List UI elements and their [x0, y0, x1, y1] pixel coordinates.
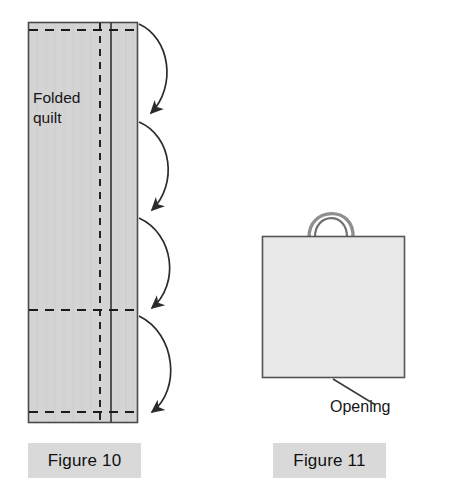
bag-body-rect — [263, 237, 405, 378]
figure-10-caption-text: Figure 10 — [48, 451, 122, 471]
opening-label: Opening — [330, 398, 391, 416]
fold-arrow-2 — [139, 122, 168, 210]
folded-quilt-label: Folded quilt — [33, 88, 97, 128]
diagram-canvas — [0, 0, 456, 503]
figure-page: Folded quilt Opening Figure 10 Figure 11 — [0, 0, 456, 503]
folded-quilt-rect — [29, 23, 138, 423]
fold-arrow-3 — [139, 218, 170, 308]
figure-10-caption-box: Figure 10 — [28, 443, 141, 478]
figure-10-group — [29, 23, 171, 423]
fold-arrow-1 — [139, 24, 167, 113]
folded-quilt-label-line-1: Folded — [33, 88, 97, 108]
bag-handle-inner — [315, 218, 347, 238]
figure-11-caption-text: Figure 11 — [293, 451, 365, 471]
figure-11-group — [263, 214, 405, 404]
figure-11-caption-box: Figure 11 — [273, 443, 386, 478]
folded-quilt-label-line-2: quilt — [33, 108, 97, 128]
fold-arrow-4 — [139, 316, 171, 412]
